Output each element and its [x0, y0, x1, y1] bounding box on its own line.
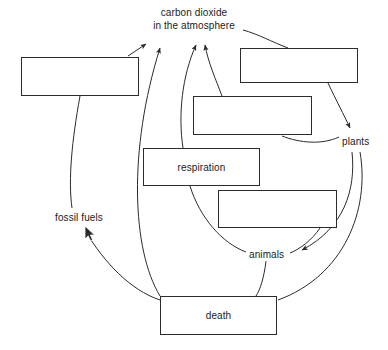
box-middle-lower[interactable]: [218, 190, 337, 228]
label-fossil-fuels: fossil fuels: [55, 212, 103, 223]
label-animals: animals: [249, 249, 284, 260]
edge-animals-to-death: [256, 261, 266, 296]
box-respiration-label: respiration: [178, 162, 226, 173]
title-line-1: carbon dioxide: [126, 6, 262, 19]
box-death-label: death: [206, 310, 232, 321]
edge-plants-to-middle-upper-box: [282, 136, 339, 142]
edge-co2-to-topright-box: [243, 30, 288, 48]
edge-topleft-box-to-fossil-fuels: [70, 96, 80, 208]
edge-topleft-box-to-co2: [128, 44, 146, 56]
box-top-left[interactable]: [21, 57, 139, 96]
label-plants: plants: [342, 136, 369, 147]
carbon-cycle-diagram: carbon dioxide in the atmosphere respira…: [0, 0, 388, 350]
edge-death-to-fossil-fuels: [86, 232, 160, 300]
edge-topright-box-to-plants: [328, 83, 350, 128]
title-line-2: in the atmosphere: [126, 19, 262, 32]
box-death[interactable]: death: [160, 296, 277, 335]
edge-middle-upper-box-to-co2: [205, 45, 222, 96]
box-respiration[interactable]: respiration: [143, 148, 260, 186]
box-top-right[interactable]: [240, 48, 358, 83]
edge-middle-lower-box-to-animals: [290, 228, 320, 253]
box-middle-upper[interactable]: [193, 96, 312, 135]
mouse-cursor-icon: [84, 225, 97, 243]
page-title: carbon dioxide in the atmosphere: [126, 6, 262, 32]
